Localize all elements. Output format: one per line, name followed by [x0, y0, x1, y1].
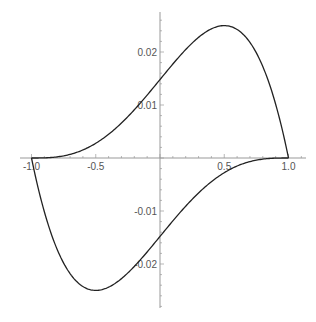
x-tick-label: -0.5: [87, 161, 105, 172]
plot-area: -1.0-0.50.51.0-0.02-0.010.010.02: [0, 0, 316, 322]
x-tick-label: -1.0: [23, 161, 41, 172]
y-tick-label: -0.02: [134, 259, 157, 270]
y-tick-label: 0.02: [138, 47, 158, 58]
chart: -1.0-0.50.51.0-0.02-0.010.010.02: [0, 0, 316, 322]
x-tick-label: 1.0: [282, 161, 296, 172]
y-tick-label: 0.01: [138, 100, 158, 111]
axes: -1.0-0.50.51.0-0.02-0.010.010.02: [20, 12, 306, 308]
y-tick-label: -0.01: [134, 206, 157, 217]
